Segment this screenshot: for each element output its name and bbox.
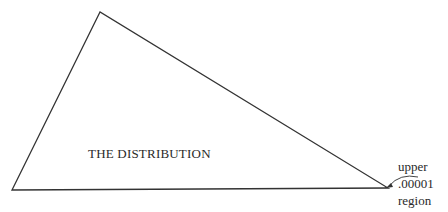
- diagram-canvas: THE DISTRIBUTION upper .00001 region: [0, 0, 448, 212]
- annotation-line-2: .00001: [398, 175, 434, 192]
- upper-region-annotation: upper .00001 region: [398, 158, 434, 209]
- distribution-triangle: [12, 12, 388, 190]
- distribution-label: THE DISTRIBUTION: [88, 146, 211, 162]
- annotation-line-3: region: [398, 192, 434, 209]
- distribution-triangle-graphic: [0, 0, 448, 212]
- arrowhead-icon: [386, 183, 393, 188]
- annotation-line-1: upper: [398, 158, 434, 175]
